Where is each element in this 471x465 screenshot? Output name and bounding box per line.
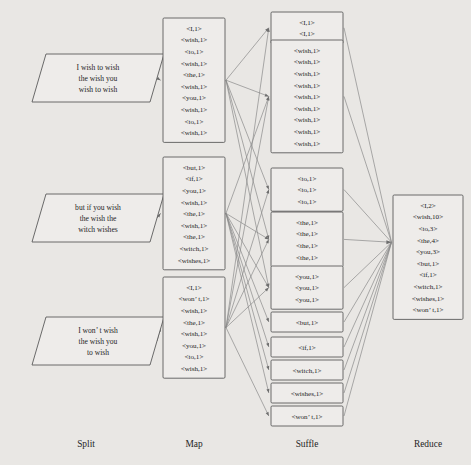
shuffle-cell: <to,1> xyxy=(298,186,317,194)
map-cell: <won’ t,1> xyxy=(178,295,209,303)
reduce-cell: <wishes,1> xyxy=(412,295,445,303)
shuffle-cell: <the,1> xyxy=(296,242,318,250)
shuffle-cell: <wish,1> xyxy=(294,105,321,113)
map-cell: <wish,1> xyxy=(181,222,208,230)
connector-line xyxy=(226,213,269,239)
shuffle-node: <you,1><you,1><you,1> xyxy=(271,266,343,309)
map-cell: <wish,1> xyxy=(181,36,208,44)
connector-line xyxy=(226,328,269,416)
reduce-cell: <you,3> xyxy=(416,248,440,256)
reduce-cell: <the,4> xyxy=(417,237,439,245)
map-node: <but,1><if,1><you,1><wish,1><the,1><wish… xyxy=(163,157,225,270)
shuffle-cell: <you,1> xyxy=(295,284,319,292)
shuffle-cell: <the,1> xyxy=(296,230,318,238)
shuffle-cell: <but,1> xyxy=(296,319,318,327)
map-cell: <I,1> xyxy=(186,284,202,292)
map-cell: <wish,1> xyxy=(181,365,208,373)
stage-label-split: Split xyxy=(77,439,95,449)
map-cell: <wish,1> xyxy=(181,330,208,338)
connector-line xyxy=(344,190,392,243)
shuffle-cell: <the,1> xyxy=(296,219,318,227)
shuffle-cell: <wish,1> xyxy=(294,58,321,66)
reduce-cell: <I,2> xyxy=(420,202,436,210)
shuffle-node: <the,1><the,1><the,1><the,1> xyxy=(271,212,343,267)
map-cell: <I,1> xyxy=(186,25,202,33)
map-cell: <the,1> xyxy=(183,319,205,327)
split-line: to wish xyxy=(87,348,109,357)
connector-line xyxy=(344,242,392,416)
split-line: wish to wish xyxy=(79,85,118,94)
stage-label-map: Map xyxy=(185,439,202,449)
map-cell: <wish,1> xyxy=(181,106,208,114)
connector-line xyxy=(226,80,269,239)
shuffle-cell: <witch,1> xyxy=(292,367,321,375)
arrow-head-icon xyxy=(266,185,269,189)
arrow-head-icon xyxy=(266,239,269,243)
stage-label-shuffle: Suffle xyxy=(296,439,319,449)
shuffle-cell: <you,1> xyxy=(295,296,319,304)
split-line: witch wishes xyxy=(78,225,117,234)
shuffle-cell: <I,1> xyxy=(299,19,315,27)
reduce-cell: <if,1> xyxy=(419,271,437,279)
mapreduce-diagram: I wish to wishthe wish youwish to wishbu… xyxy=(0,0,471,465)
shuffle-cell: <wish,1> xyxy=(294,116,321,124)
map-cell: <the,1> xyxy=(183,71,205,79)
split-line: I wish to wish xyxy=(77,63,120,72)
shuffle-cell: <wish,1> xyxy=(294,70,321,78)
arrow-head-icon xyxy=(266,190,269,194)
map-node: <I,1><won’ t,1><wish,1><the,1><wish,1><y… xyxy=(163,277,225,378)
shuffle-cell: <won’ t,1> xyxy=(291,413,322,421)
shuffle-cell: <to,1> xyxy=(298,198,317,206)
map-cell: <wish,1> xyxy=(181,83,208,91)
shuffle-node: <if,1> xyxy=(271,337,343,357)
arrow-head-icon xyxy=(265,94,269,97)
reduce-cell: <but,1> xyxy=(417,260,439,268)
split-line: the wish you xyxy=(79,74,118,83)
split-line: the wish you xyxy=(79,337,118,346)
map-cell: <wish,1> xyxy=(181,60,208,68)
map-cell: <the,1> xyxy=(183,210,205,218)
split-node: I wish to wishthe wish youwish to wish xyxy=(32,54,164,102)
shuffle-node: <witch,1> xyxy=(271,360,343,380)
connector-line xyxy=(344,242,392,370)
shuffle-cell: <wish,1> xyxy=(294,140,321,148)
diagram-canvas: I wish to wishthe wish youwish to wishbu… xyxy=(0,0,471,465)
shuffle-cell: <you,1> xyxy=(295,273,319,281)
map-cell: <wish,1> xyxy=(181,129,208,137)
connector-line xyxy=(226,80,269,96)
shuffle-node: <wish,1><wish,1><wish,1><wish,1><wish,1>… xyxy=(271,40,343,153)
split-line: I won’ t wish xyxy=(78,326,118,335)
map-cell: <wish,1> xyxy=(181,199,208,207)
connector-line xyxy=(344,28,392,242)
map-cell: <but,1> xyxy=(183,164,205,172)
reduce-node: <I,2><wish,10><to,3><the,4><you,3><but,1… xyxy=(393,195,463,319)
shuffle-cell: <wishes,1> xyxy=(291,390,324,398)
split-node: I won’ t wishthe wish youto wish xyxy=(32,317,164,365)
shuffle-cell: <if,1> xyxy=(298,344,316,352)
map-node-box xyxy=(163,277,225,378)
connector-line xyxy=(226,213,269,322)
map-cell: <to,1> xyxy=(185,48,204,56)
shuffle-node-box xyxy=(271,12,343,44)
shuffle-node: <to,1><to,1><to,1> xyxy=(271,168,343,211)
split-node: but if you wishthe wish thewitch wishes xyxy=(32,194,164,242)
connector-line xyxy=(226,80,269,189)
reduce-cell: <wish,10> xyxy=(413,213,443,221)
connector-line xyxy=(226,80,269,287)
map-cell: <you,1> xyxy=(182,342,206,350)
map-cell: <you,1> xyxy=(182,94,206,102)
stage-label-reduce: Reduce xyxy=(414,439,442,449)
arrow-head-icon xyxy=(266,343,269,347)
connector-line xyxy=(226,96,269,213)
shuffle-node: <but,1> xyxy=(271,312,343,332)
map-node: <I,1><wish,1><to,1><wish,1><the,1><wish,… xyxy=(163,18,225,142)
connector-line xyxy=(344,96,392,242)
shuffle-cell: <I,1> xyxy=(299,30,315,38)
map-cell: <the,1> xyxy=(183,233,205,241)
connector-line xyxy=(226,213,269,287)
shuffle-cell: <wish,1> xyxy=(294,128,321,136)
reduce-cell: <won’ t,1> xyxy=(412,306,443,314)
map-cell: <you,1> xyxy=(182,187,206,195)
reduce-cell: <to,3> xyxy=(419,225,438,233)
stage-label-layer: SplitMapSuffleReduce xyxy=(77,439,442,449)
